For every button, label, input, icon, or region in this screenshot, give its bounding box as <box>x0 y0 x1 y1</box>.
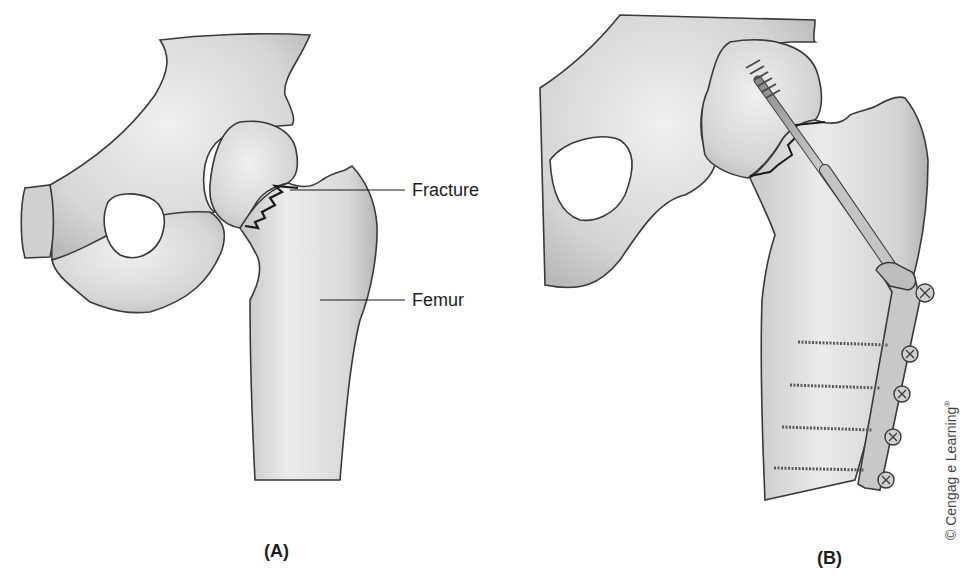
panel-b-fixed-hip: (B) <box>520 0 940 585</box>
copyright-notice: © Cengag e Learning® <box>943 401 959 540</box>
panel-a-caption: (A) <box>264 541 289 562</box>
label-fracture: Fracture <box>412 180 479 201</box>
panel-b-caption: (B) <box>817 548 842 569</box>
registered-mark: ® <box>943 401 952 407</box>
copyright-text: © Cengag e Learning <box>943 407 959 540</box>
femur <box>240 166 377 480</box>
panel-a-fractured-hip: Fracture Femur (A) <box>0 0 520 585</box>
label-femur: Femur <box>412 290 464 311</box>
fixed-hip-illustration <box>520 0 940 585</box>
